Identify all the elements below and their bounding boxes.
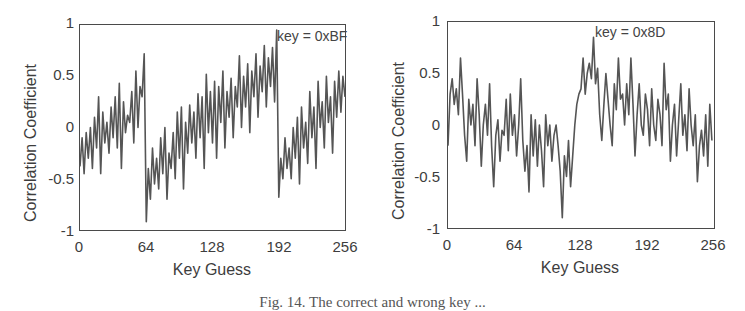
left-xtick: 128 [192,238,232,255]
right-xtick: 256 [693,236,733,253]
left-xtick: 0 [59,238,99,255]
left-xtick: 192 [259,238,299,255]
right-ytick: 1 [404,12,440,29]
left-ytick: -1 [38,222,74,239]
left-ytick: 1 [38,14,74,31]
right-xtick: 128 [560,236,600,253]
left-ytick: 0 [38,118,74,135]
right-ytick: 0.5 [404,64,440,81]
right-plot-line [448,22,714,228]
left-xtick: 256 [325,238,365,255]
left-ytick: 0.5 [38,66,74,83]
left-key-annotation: key = 0xBF [277,28,347,44]
left-plot-line [80,25,345,230]
right-x-axis-label: Key Guess [480,259,680,277]
left-xtick: 64 [126,238,166,255]
left-ytick: -0.5 [38,170,74,187]
right-ytick: -1 [404,220,440,237]
right-xtick: 192 [627,236,667,253]
left-x-axis-label: Key Guess [112,261,312,279]
right-xtick: 64 [494,236,534,253]
left-y-axis-label: Correlation Coefficient [22,64,40,222]
figure-caption: Fig. 14. The correct and wrong key ... [0,294,745,311]
right-key-annotation: key = 0x8D [595,24,665,40]
right-ytick: 0 [404,116,440,133]
right-ytick: -0.5 [404,168,440,185]
right-y-axis-label: Correlation Coefficient [390,62,408,220]
right-xtick: 0 [427,236,467,253]
